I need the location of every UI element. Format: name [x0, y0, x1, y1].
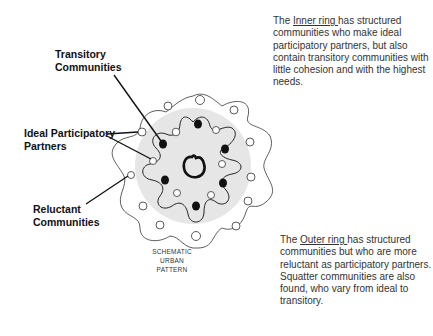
label-line: Communities	[33, 216, 100, 229]
label-ideal-participatory-partners: Ideal Participatory Partners	[24, 127, 115, 153]
label-transitory-communities: Transitory Communities	[55, 48, 122, 74]
caption-line: URBAN	[142, 256, 202, 265]
label-line: Partners	[24, 140, 115, 153]
inner-ring-note: The Inner ring has structured communitie…	[273, 15, 431, 89]
note-prefix: The	[280, 234, 300, 245]
caption-line: SCHEMATIC	[142, 247, 202, 256]
outer-ring-term: Outer ring	[300, 234, 347, 245]
inner-ring-term: Inner ring	[293, 15, 338, 26]
label-line: Communities	[55, 61, 122, 74]
label-reluctant-communities: Reluctant Communities	[33, 203, 100, 229]
squatter-note: Squatter communities are also found, who…	[280, 271, 432, 308]
diagram-caption: SCHEMATIC URBAN PATTERN	[142, 247, 202, 274]
note-prefix: The	[273, 15, 293, 26]
caption-line: PATTERN	[142, 265, 202, 274]
label-line: Transitory	[55, 48, 122, 61]
label-line: Ideal Participatory	[24, 127, 115, 140]
outer-ring-note: The Outer ring has structured communitie…	[280, 234, 432, 308]
label-line: Reluctant	[33, 203, 100, 216]
